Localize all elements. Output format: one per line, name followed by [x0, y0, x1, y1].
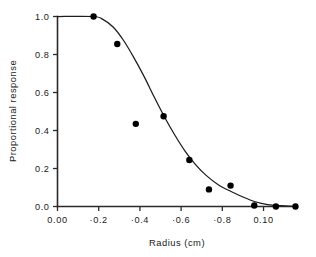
x-tick-label: 0.00 [47, 215, 67, 225]
x-tick-label: 0.10 [253, 215, 273, 225]
x-axis-tick-labels: 0.00·0.2·0.4·0.6·0.80.10 [47, 215, 273, 225]
data-point-marker [206, 186, 212, 192]
x-axis-title: Radius (cm) [149, 237, 205, 248]
y-axis-tick-labels: 0.00.20.40.60.81.0 [35, 12, 50, 212]
fitted-curve [58, 16, 297, 206]
y-tick-label: 0.4 [35, 126, 50, 136]
y-tick-label: 0.8 [35, 50, 50, 60]
x-tick-label: ·0.8 [213, 215, 231, 225]
y-axis-title: Proportional response [7, 60, 18, 162]
data-point-marker [160, 113, 166, 119]
data-point-marker [90, 13, 96, 19]
scatter-plot: 0.00.20.40.60.81.0 0.00·0.2·0.4·0.6·0.80… [0, 0, 316, 257]
data-point-marker [114, 41, 120, 47]
y-tick-label: 0.0 [35, 202, 50, 212]
x-tick-label: ·0.6 [172, 215, 190, 225]
x-tick-label: ·0.2 [90, 215, 108, 225]
data-point-marker [292, 203, 298, 209]
y-tick-label: 1.0 [35, 12, 50, 22]
plot-axes [58, 17, 297, 207]
data-points [90, 13, 298, 209]
chart-figure: 0.00.20.40.60.81.0 0.00·0.2·0.4·0.6·0.80… [0, 0, 316, 257]
data-point-marker [273, 203, 279, 209]
y-tick-label: 0.2 [35, 164, 50, 174]
y-tick-label: 0.6 [35, 88, 50, 98]
data-point-marker [251, 202, 257, 208]
x-tick-label: ·0.4 [131, 215, 149, 225]
data-point-marker [227, 182, 233, 188]
data-point-marker [186, 157, 192, 163]
data-point-marker [133, 121, 139, 127]
